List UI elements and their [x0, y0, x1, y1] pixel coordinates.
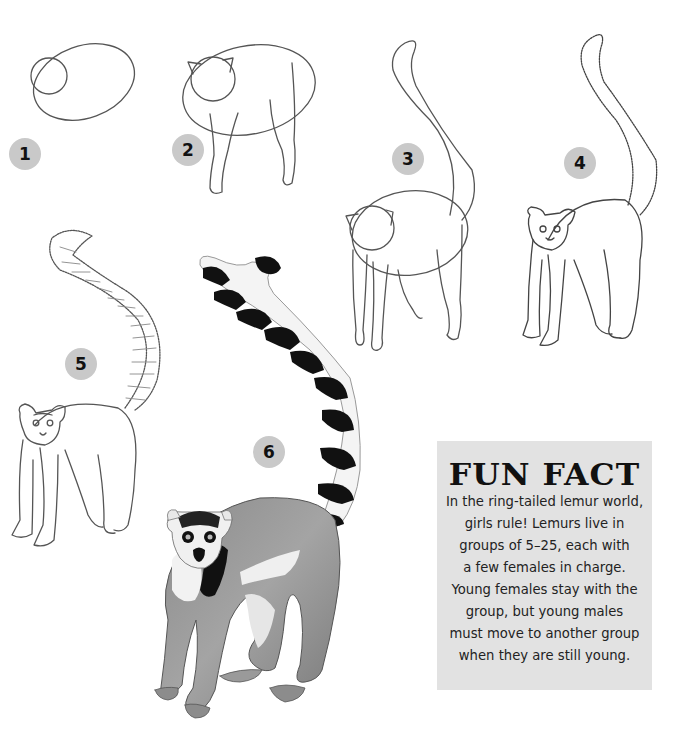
step-badge-3: 3 — [392, 143, 424, 175]
fun-fact-line: Young females stay with the — [443, 579, 646, 601]
fun-fact-line: must move to another group — [443, 623, 646, 645]
step6-finished-lemur — [155, 256, 360, 718]
step2-sketch — [174, 33, 323, 193]
step-badge-6: 6 — [253, 436, 285, 468]
fun-fact-line: In the ring-tailed lemur world, — [443, 491, 646, 513]
fun-fact-text: In the ring-tailed lemur world, girls ru… — [437, 491, 652, 667]
fun-fact-line: girls rule! Lemurs live in — [443, 513, 646, 535]
step4-sketch — [523, 35, 657, 346]
drawing-page: 1 2 3 4 5 6 FUN FACT In the ring-tailed … — [0, 0, 688, 733]
fun-fact-line: a few females in charge. — [443, 557, 646, 579]
fun-fact-panel: FUN FACT In the ring-tailed lemur world,… — [437, 441, 652, 690]
fun-fact-line: groups of 5–25, each with — [443, 535, 646, 557]
step-number: 6 — [263, 442, 275, 462]
step-number: 1 — [19, 144, 31, 164]
step-number: 3 — [402, 149, 414, 169]
step-badge-1: 1 — [9, 138, 41, 170]
step1-sketch — [23, 30, 145, 133]
step-badge-2: 2 — [172, 134, 204, 166]
step-badge-5: 5 — [65, 348, 97, 380]
fun-fact-title: FUN FACT — [432, 459, 658, 491]
fun-fact-line: when they are still young. — [443, 645, 646, 667]
step-number: 4 — [574, 153, 586, 173]
fun-fact-line: group, but young males — [443, 601, 646, 623]
step-number: 2 — [182, 140, 194, 160]
step5-sketch — [12, 230, 160, 545]
step-badge-4: 4 — [564, 147, 596, 179]
step-number: 5 — [75, 354, 87, 374]
step3-sketch — [346, 41, 474, 350]
